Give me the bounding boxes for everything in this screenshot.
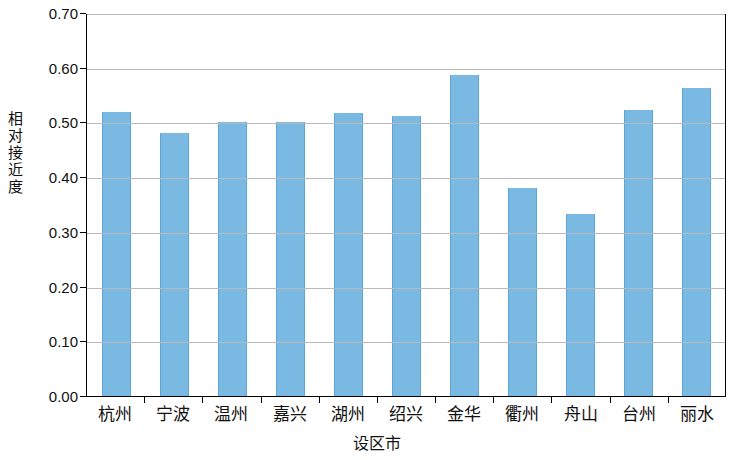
- y-axis-tick-label: 0.20: [16, 279, 78, 296]
- bar-slot: [261, 15, 319, 396]
- x-axis-tick-label: 金华: [435, 402, 493, 430]
- plot-area: [86, 14, 726, 397]
- x-axis-tick-label: 台州: [610, 402, 668, 430]
- bar: [508, 188, 537, 396]
- bar-slot: [435, 15, 493, 396]
- gridline: [87, 14, 725, 15]
- bar-slot: [87, 15, 145, 396]
- x-axis-tick-label: 杭州: [86, 402, 144, 430]
- bar: [624, 110, 653, 396]
- bar: [276, 122, 305, 396]
- x-axis-tick-label: 湖州: [319, 402, 377, 430]
- y-axis-tick-mark: [80, 13, 86, 14]
- y-axis-tick-label: 0.50: [16, 114, 78, 131]
- bar-slot: [493, 15, 551, 396]
- x-axis-tick-label: 绍兴: [377, 402, 435, 430]
- y-axis-tick-label: 0.30: [16, 224, 78, 241]
- gridline: [87, 123, 725, 124]
- x-axis-tick-label: 舟山: [552, 402, 610, 430]
- gridline: [87, 233, 725, 234]
- x-axis-tick-labels: 杭州宁波温州嘉兴湖州绍兴金华衢州舟山台州丽水: [86, 402, 726, 430]
- y-axis-tick-label: 0.00: [16, 388, 78, 405]
- chart-container: 相对接近度 0.700.600.500.400.300.200.100.00 杭…: [0, 0, 754, 460]
- bar-slot: [203, 15, 261, 396]
- y-axis-tick-label: 0.40: [16, 169, 78, 186]
- bar-slot: [145, 15, 203, 396]
- gridline: [87, 342, 725, 343]
- bar: [334, 113, 363, 396]
- bar: [392, 116, 421, 396]
- y-axis-tick-label: 0.60: [16, 60, 78, 77]
- y-axis-tick-mark: [80, 287, 86, 288]
- x-axis-tick-label: 宁波: [144, 402, 202, 430]
- y-axis-tick-mark: [80, 232, 86, 233]
- y-axis-tick-mark: [80, 122, 86, 123]
- y-axis-tick-label: 0.70: [16, 5, 78, 22]
- y-axis-tick-mark: [80, 396, 86, 397]
- y-axis-tick-mark: [80, 177, 86, 178]
- x-axis-title: 设区市: [0, 430, 754, 454]
- gridline: [87, 178, 725, 179]
- bar-slot: [609, 15, 667, 396]
- bar-slot: [667, 15, 725, 396]
- y-axis-tick-label: 0.10: [16, 333, 78, 350]
- bar: [102, 112, 131, 397]
- bar-series: [87, 15, 725, 396]
- bar-slot: [319, 15, 377, 396]
- bar-slot: [551, 15, 609, 396]
- y-axis-tick-mark: [80, 341, 86, 342]
- bar: [682, 88, 711, 396]
- gridline: [87, 69, 725, 70]
- y-axis-title-char: 接: [2, 144, 28, 161]
- bar: [566, 214, 595, 396]
- y-axis-tick-mark: [80, 68, 86, 69]
- bar: [160, 133, 189, 396]
- x-axis-tick-label: 温州: [202, 402, 260, 430]
- x-axis-tick-label: 丽水: [668, 402, 726, 430]
- bar-slot: [377, 15, 435, 396]
- gridline: [87, 288, 725, 289]
- bar: [218, 122, 247, 396]
- x-axis-tick-label: 嘉兴: [261, 402, 319, 430]
- x-axis-tick-label: 衢州: [493, 402, 551, 430]
